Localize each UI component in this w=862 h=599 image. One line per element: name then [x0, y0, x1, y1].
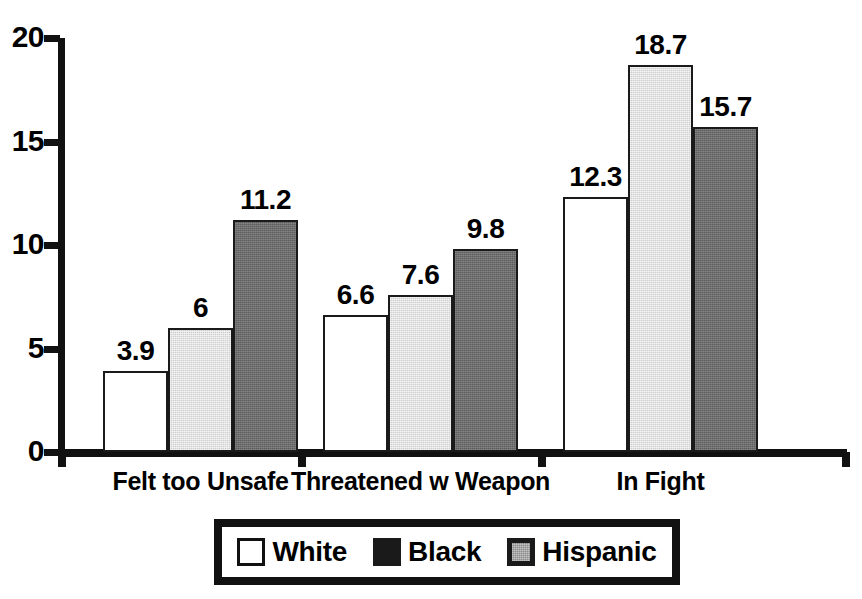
legend-item-label: Black [408, 538, 481, 566]
bar-value-label: 18.7 [614, 31, 707, 59]
gray-square-icon [507, 538, 535, 566]
bar-value-label: 11.2 [219, 186, 312, 214]
bar-white-0 [103, 371, 168, 452]
bar-value-label: 6 [154, 294, 247, 322]
black-square-icon [373, 538, 401, 566]
bar-value-label: 3.9 [89, 337, 182, 365]
legend-item-white[interactable]: White [237, 538, 347, 566]
plot-area: 3.9611.26.67.69.812.318.715.7 [58, 38, 847, 452]
y-axis-tick-label: 20 [0, 22, 44, 52]
x-axis-category-label: In Fight [501, 469, 821, 494]
bar-black-2 [628, 65, 693, 452]
y-axis-tick-label: 10 [0, 229, 44, 259]
bar-value-label: 9.8 [439, 215, 532, 243]
legend-item-label: Hispanic [542, 538, 656, 566]
bar-white-1 [323, 315, 388, 452]
x-axis-tick [538, 452, 546, 467]
legend: WhiteBlackHispanic [214, 519, 680, 585]
bar-value-label: 12.3 [549, 163, 642, 191]
x-axis-tick [58, 452, 66, 467]
bar-value-label: 15.7 [679, 93, 772, 121]
bar-hispanic-0 [233, 220, 298, 452]
x-axis-tick [298, 452, 306, 467]
legend-item-black[interactable]: Black [373, 538, 481, 566]
bar-white-2 [563, 197, 628, 452]
white-square-icon [237, 538, 265, 566]
bar-value-label: 7.6 [374, 261, 467, 289]
legend-item-label: White [272, 538, 347, 566]
bar-black-1 [388, 295, 453, 452]
bar-chart: 05101520 3.9611.26.67.69.812.318.715.7 F… [0, 0, 862, 599]
x-axis-tick [842, 452, 850, 467]
y-axis-tick-label: 5 [0, 333, 44, 363]
y-axis-tick-label: 15 [0, 126, 44, 156]
bar-hispanic-2 [693, 127, 758, 452]
legend-item-hispanic[interactable]: Hispanic [507, 538, 656, 566]
y-axis-tick-label: 0 [0, 436, 44, 466]
